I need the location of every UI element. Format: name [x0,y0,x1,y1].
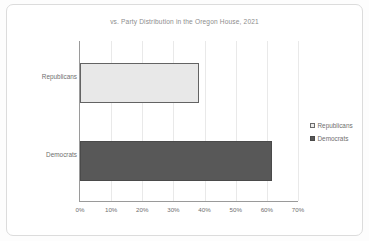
legend-swatch-republicans-icon [310,123,315,128]
category-label-democrats: Democrats [15,151,77,158]
chart-card: vs. Party Distribution in the Oregon Hou… [6,4,363,236]
chart-legend: Republicans Democrats [310,122,353,148]
legend-item-democrats: Democrats [310,135,353,142]
x-tick-label-30%: 30% [162,206,184,213]
x-tick-label-60%: 60% [256,206,278,213]
legend-label-democrats: Democrats [318,135,349,142]
category-axis-labels: Republicans Democrats [11,5,77,241]
x-axis-line [79,201,298,202]
x-tick-label-10%: 10% [100,206,122,213]
x-tick-label-70%: 70% [287,206,309,213]
x-tick-label-40%: 40% [194,206,216,213]
bar-republicans [80,63,199,103]
x-tick-label-20%: 20% [131,206,153,213]
legend-swatch-democrats-icon [310,136,315,141]
plot-area [80,41,298,201]
legend-label-republicans: Republicans [318,122,353,129]
x-tick-label-50%: 50% [225,206,247,213]
bar-democrats [80,141,272,181]
category-label-republicans: Republicans [15,73,77,80]
legend-item-republicans: Republicans [310,122,353,129]
chart-page: vs. Party Distribution in the Oregon Hou… [0,0,369,241]
gridline-70 [298,41,299,201]
x-tick-label-0%: 0% [69,206,91,213]
